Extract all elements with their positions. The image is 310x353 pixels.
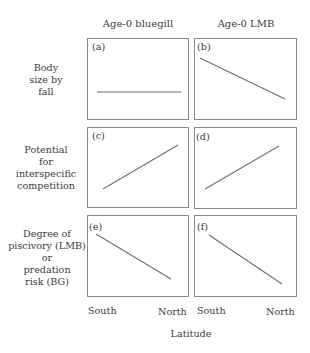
column-title-lmb: Age-0 LMB bbox=[217, 18, 275, 29]
x-tick-north-right: North bbox=[266, 306, 295, 317]
panel-f: (f) bbox=[195, 216, 297, 297]
row-label-piscivory: Degree of piscivory (LMB) or predation r… bbox=[8, 228, 86, 287]
row-label-line: Potential bbox=[24, 144, 67, 155]
row-label-line: predation bbox=[23, 264, 70, 275]
row-label-line: size by bbox=[29, 74, 63, 85]
x-axis-title: Latitude bbox=[171, 328, 212, 339]
x-tick-south-left: South bbox=[88, 305, 117, 316]
panel-label: (f) bbox=[197, 221, 208, 232]
row-label-line: Body bbox=[34, 62, 59, 73]
row-label-line: piscivory (LMB) bbox=[8, 240, 86, 251]
panel-a: (a) bbox=[88, 39, 189, 120]
panel-label: (b) bbox=[197, 41, 211, 52]
panel-b: (b) bbox=[195, 39, 297, 120]
panel-e: (e) bbox=[88, 216, 189, 297]
row-label-line: interspecific bbox=[16, 168, 76, 179]
panel-d: (d) bbox=[195, 128, 297, 209]
row-label-competition: Potential for interspecific competition bbox=[16, 144, 76, 191]
panel-c: (c) bbox=[88, 128, 189, 208]
panel-label: (a) bbox=[92, 41, 105, 52]
row-label-line: competition bbox=[17, 180, 75, 191]
row-label-line: risk (BG) bbox=[25, 276, 69, 287]
x-tick-north-left: North bbox=[158, 306, 187, 317]
panel-label: (d) bbox=[196, 131, 210, 142]
panel-label: (c) bbox=[92, 130, 105, 141]
row-label-line: Degree of bbox=[23, 228, 72, 239]
panel-frame bbox=[195, 216, 297, 297]
figure: Age-0 bluegill Age-0 LMB Body size by fa… bbox=[0, 0, 310, 353]
row-label-line: fall bbox=[38, 86, 53, 97]
row-label-line: or bbox=[42, 252, 53, 263]
row-label-body-size: Body size by fall bbox=[29, 62, 63, 97]
row-label-line: for bbox=[39, 156, 53, 167]
panel-frame bbox=[88, 216, 189, 297]
panel-frame bbox=[195, 128, 297, 209]
x-tick-south-right: South bbox=[197, 305, 226, 316]
column-title-bluegill: Age-0 bluegill bbox=[102, 18, 173, 29]
panel-label: (e) bbox=[89, 221, 102, 232]
